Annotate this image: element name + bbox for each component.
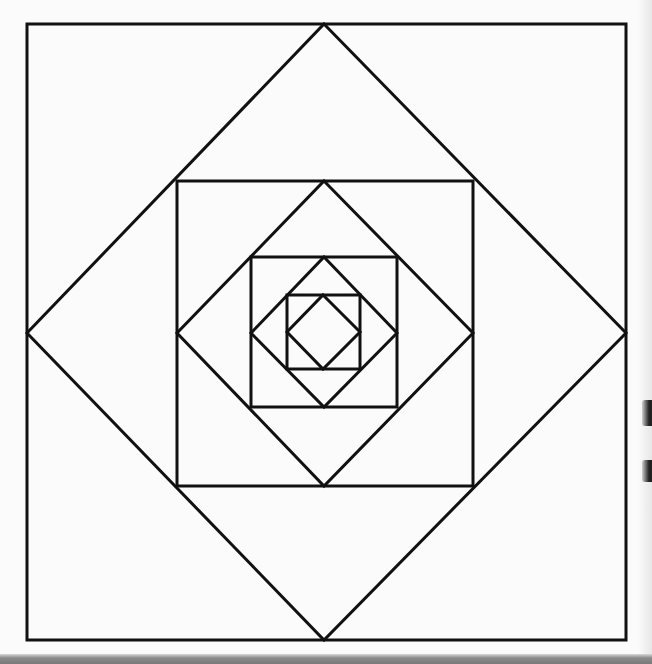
page-bottom-edge [0,654,652,664]
page-edge-shadow [638,0,652,664]
shape-group [27,24,626,640]
third-square [251,257,397,407]
nested-squares-diagram [0,0,652,664]
binding-mark-bottom [642,460,652,482]
second-square [177,181,473,486]
third-diamond [251,257,397,407]
outer-square [27,24,626,640]
binding-mark-top [642,400,652,426]
second-diamond [177,181,473,486]
inner-square [287,295,360,369]
inner-diamond [287,295,360,369]
outer-diamond [27,24,626,640]
